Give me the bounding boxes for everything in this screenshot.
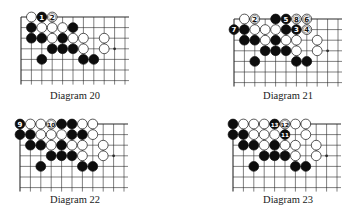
white-stone (270, 130, 280, 140)
black-stone (259, 151, 269, 161)
white-stone (259, 140, 269, 150)
black-stone (228, 130, 238, 140)
black-stone (228, 119, 238, 129)
black-stone (280, 151, 290, 161)
black-stone (270, 140, 280, 150)
white-stone (301, 130, 311, 140)
white-stone (249, 119, 259, 129)
black-stone: 13 (270, 119, 280, 129)
white-stone: 12 (280, 119, 290, 129)
black-stone (249, 140, 259, 150)
move-number: 13 (271, 122, 279, 128)
white-stone (259, 119, 269, 129)
move-number: 11 (281, 132, 289, 138)
white-stone (291, 151, 301, 161)
move-number: 12 (281, 122, 289, 128)
white-stone (301, 119, 311, 129)
white-stone (291, 119, 301, 129)
white-stone (311, 151, 321, 161)
white-stone (259, 130, 269, 140)
black-stone (270, 151, 280, 161)
go-diagram-23: 131211 Diagram 23 (0, 0, 364, 215)
white-stone (280, 140, 290, 150)
black-stone (249, 162, 259, 172)
black-stone: 11 (280, 130, 290, 140)
go-board: 131211 (0, 0, 364, 200)
black-stone (239, 140, 249, 150)
white-stone (249, 130, 259, 140)
diagram-caption: Diagram 23 (218, 194, 358, 205)
black-stone (301, 162, 311, 172)
black-stone (291, 162, 301, 172)
white-stone (291, 140, 301, 150)
star-point (325, 154, 328, 157)
white-stone (239, 119, 249, 129)
white-stone (311, 140, 321, 150)
black-stone (239, 130, 249, 140)
